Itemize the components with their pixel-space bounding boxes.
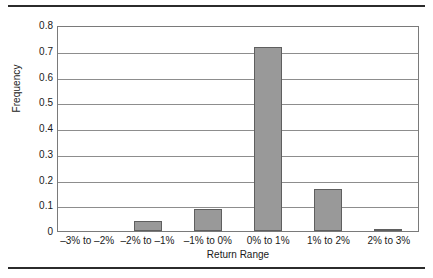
y-axis-tick-label: 0.2 [20, 176, 53, 186]
y-axis-tick-label: 0.4 [20, 124, 53, 134]
x-axis-tick-label: –3% to –2% [57, 235, 117, 246]
x-axis-tick-labels: –3% to –2%–2% to –1%–1% to 0%0% to 1%1% … [57, 235, 419, 246]
x-axis-tick-label: –2% to –1% [117, 235, 177, 246]
chart-figure: Frequency 0.80.70.60.50.40.30.20.10 –3% … [0, 0, 433, 278]
bar[interactable] [314, 189, 342, 231]
bar-slot [298, 27, 358, 231]
bar[interactable] [134, 221, 162, 231]
bottom-divider-rule [8, 267, 425, 269]
y-axis-tick-label: 0.8 [20, 21, 53, 31]
x-axis-title: Return Range [57, 249, 419, 260]
bar-slot [178, 27, 238, 231]
bar-slot [58, 27, 118, 231]
bar-series [58, 27, 418, 231]
y-axis-tick-label: 0.6 [20, 73, 53, 83]
bar[interactable] [194, 209, 222, 231]
x-axis-tick-label: 0% to 1% [238, 235, 298, 246]
x-axis-tick-label: –1% to 0% [178, 235, 238, 246]
bar-slot [358, 27, 418, 231]
bar-slot [238, 27, 298, 231]
y-axis-tick-label: 0.5 [20, 98, 53, 108]
y-axis-tick-label: 0.7 [20, 47, 53, 57]
y-axis-tick-label: 0.3 [20, 150, 53, 160]
plot-area [57, 26, 419, 232]
bar-slot [118, 27, 178, 231]
y-axis-tick-label: 0.1 [20, 201, 53, 211]
y-axis-tick-label: 0 [20, 227, 53, 237]
x-axis-tick-label: 2% to 3% [359, 235, 419, 246]
bar[interactable] [374, 229, 402, 231]
x-axis-tick-label: 1% to 2% [298, 235, 358, 246]
bar[interactable] [254, 47, 282, 231]
top-divider-rule [8, 5, 425, 7]
y-axis-tick-labels: 0.80.70.60.50.40.30.20.10 [20, 26, 53, 232]
